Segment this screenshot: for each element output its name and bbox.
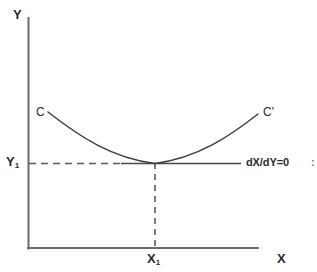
curve-left-endpoint-label: C bbox=[36, 106, 45, 118]
y1-tick-subscript: 1 bbox=[15, 161, 19, 170]
cost-curve-path bbox=[48, 112, 258, 164]
right-edge-fragment: : bbox=[311, 157, 315, 168]
y1-tick-label: Y1 bbox=[6, 155, 19, 168]
slope-zero-annotation: dX/dY=0 bbox=[246, 157, 289, 168]
graph-plot-area bbox=[0, 0, 317, 272]
curve-right-endpoint-label: C' bbox=[263, 106, 274, 118]
figure-canvas: Y X Y1 X1 C C' dX/dY=0 : bbox=[0, 0, 317, 272]
x1-tick-subscript: 1 bbox=[156, 258, 160, 267]
y1-tick-base: Y bbox=[6, 154, 15, 169]
y-axis-label: Y bbox=[13, 8, 22, 21]
x1-tick-label: X1 bbox=[147, 252, 160, 265]
x1-tick-base: X bbox=[147, 251, 156, 266]
x-axis-label: X bbox=[277, 252, 286, 265]
